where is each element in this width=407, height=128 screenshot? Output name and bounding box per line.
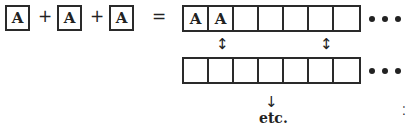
array-cell [334, 59, 359, 82]
dot [369, 16, 375, 22]
term-label: A [64, 9, 76, 27]
plus-sign: + [38, 6, 52, 26]
dot [395, 68, 401, 74]
etc-label: etc. [259, 110, 288, 126]
dot [382, 16, 388, 22]
array-cell [209, 59, 234, 82]
array-cell [259, 59, 284, 82]
term-box-1: A [5, 5, 30, 31]
array-cell: A [184, 7, 209, 30]
array-cell [284, 59, 309, 82]
term-box-2: A [57, 5, 82, 31]
ellipsis-dots-bottom [369, 68, 401, 74]
dot [382, 68, 388, 74]
swap-arrow-icon: ↕ [320, 37, 333, 52]
array-cell [334, 7, 359, 30]
array-cell [234, 59, 259, 82]
array-cell [284, 7, 309, 30]
term-box-3: A [109, 5, 134, 31]
array-cell [259, 7, 284, 30]
top-array: A A [182, 5, 361, 32]
bottom-array [182, 57, 361, 84]
term-label: A [116, 9, 128, 27]
plus-sign: + [90, 6, 104, 26]
swap-arrow-icon: ↕ [216, 37, 229, 52]
array-cell: A [209, 7, 234, 30]
ellipsis-dots-top [369, 16, 401, 22]
array-cell [309, 7, 334, 30]
array-cell [234, 7, 259, 30]
margin-mark: ⁚ [402, 104, 406, 118]
array-cell [184, 59, 209, 82]
equals-sign: = [152, 6, 166, 26]
dot [395, 16, 401, 22]
term-label: A [12, 9, 24, 27]
down-arrow-icon: ↓ [265, 95, 278, 110]
array-cell [309, 59, 334, 82]
dot [369, 68, 375, 74]
